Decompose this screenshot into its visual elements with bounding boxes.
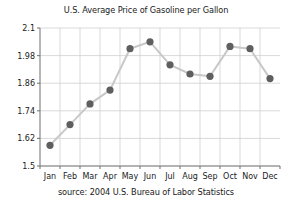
svg-text:Apr: Apr bbox=[103, 172, 118, 181]
svg-text:Feb: Feb bbox=[63, 172, 77, 181]
data-point-dec bbox=[266, 75, 273, 82]
svg-text:Nov: Nov bbox=[242, 172, 258, 181]
data-point-sep bbox=[206, 73, 213, 80]
svg-text:1.98: 1.98 bbox=[17, 52, 35, 61]
svg-text:Aug: Aug bbox=[182, 172, 198, 181]
svg-text:Sep: Sep bbox=[202, 172, 217, 181]
data-point-feb bbox=[66, 121, 73, 128]
data-point-apr bbox=[106, 87, 113, 94]
chart-figure: U.S. Average Price of Gasoline per Gallo… bbox=[0, 0, 292, 208]
svg-text:Oct: Oct bbox=[223, 172, 237, 181]
source-caption: source: 2004 U.S. Bureau of Labor Statis… bbox=[0, 187, 292, 197]
svg-text:Jan: Jan bbox=[43, 172, 56, 181]
x-axis-tick-labels: JanFebMarAprMayJunJulAugSepOctNovDec bbox=[43, 172, 278, 181]
svg-text:1.5: 1.5 bbox=[22, 162, 35, 171]
svg-text:May: May bbox=[122, 172, 139, 181]
data-point-jan bbox=[46, 142, 53, 149]
svg-text:2.1: 2.1 bbox=[22, 24, 35, 33]
svg-text:Jun: Jun bbox=[143, 172, 157, 181]
data-point-mar bbox=[86, 100, 93, 107]
data-point-aug bbox=[186, 70, 193, 77]
data-point-may bbox=[126, 45, 133, 52]
svg-text:Dec: Dec bbox=[262, 172, 277, 181]
line-chart-plot: 1.51.621.741.861.982.1 JanFebMarAprMayJu… bbox=[0, 0, 292, 208]
svg-text:1.62: 1.62 bbox=[17, 134, 35, 143]
svg-text:Jul: Jul bbox=[164, 172, 175, 181]
svg-text:Mar: Mar bbox=[82, 172, 98, 181]
svg-text:1.74: 1.74 bbox=[17, 107, 35, 116]
data-point-jun bbox=[146, 38, 153, 45]
y-axis-tick-labels: 1.51.621.741.861.982.1 bbox=[17, 24, 35, 171]
data-point-oct bbox=[226, 43, 233, 50]
data-point-nov bbox=[246, 45, 253, 52]
data-point-jul bbox=[166, 61, 173, 68]
tick-marks bbox=[37, 28, 280, 169]
svg-text:1.86: 1.86 bbox=[17, 79, 35, 88]
